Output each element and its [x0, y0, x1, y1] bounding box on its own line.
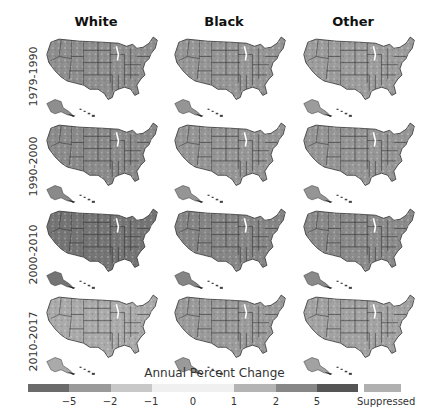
map-other-1990-2000 — [293, 120, 421, 208]
legend-bin-2 — [69, 384, 110, 392]
column-title-other: Other — [293, 14, 413, 29]
row-label-1990-2000: 1990-2000 — [4, 160, 24, 173]
map-other-2000-2010 — [293, 206, 421, 294]
map-black-1990-2000 — [164, 120, 292, 208]
legend-bin-3 — [111, 384, 152, 392]
legend-bin-6 — [234, 384, 275, 392]
map-other-1979-1990 — [293, 34, 421, 122]
column-title-white: White — [36, 14, 156, 29]
column-title-black: Black — [164, 14, 284, 29]
map-white-1990-2000 — [36, 120, 164, 208]
legend-title: Annual Percent Change — [0, 366, 429, 380]
legend-bin-4 — [152, 384, 193, 392]
row-label-2010-2017: 2010-2017 — [4, 335, 24, 348]
map-white-1979-1990 — [36, 34, 164, 122]
row-label-2000-2010: 2000-2010 — [4, 248, 24, 261]
map-black-2000-2010 — [164, 206, 292, 294]
legend-tick: −2 — [103, 396, 118, 407]
row-label-1979-1990: 1979-1990 — [4, 70, 24, 83]
legend-bin-7 — [276, 384, 317, 392]
legend-tick: 0 — [190, 396, 196, 407]
legend-tick: −1 — [144, 396, 159, 407]
legend-tick: 5 — [314, 396, 320, 407]
legend-tick: 2 — [273, 396, 279, 407]
map-white-2000-2010 — [36, 206, 164, 294]
legend-color-bar — [28, 384, 358, 392]
legend-tick: −5 — [62, 396, 77, 407]
legend-bin-8 — [317, 384, 358, 392]
legend-bin-5 — [193, 384, 234, 392]
map-black-1979-1990 — [164, 34, 292, 122]
legend-suppressed-label: Suppressed — [357, 396, 415, 407]
legend-suppressed-swatch — [364, 384, 401, 392]
legend-bin-1 — [28, 384, 69, 392]
legend-tick: 1 — [231, 396, 237, 407]
